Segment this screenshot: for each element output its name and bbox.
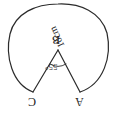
figure-svg	[0, 0, 117, 115]
vertex-label-a: A	[75, 96, 84, 108]
vertex-label-c: C	[28, 96, 36, 108]
radius-line-ba	[58, 50, 80, 92]
geometry-figure: B C A 55° 10cm	[0, 0, 117, 115]
angle-measure-label: 55°	[45, 62, 58, 71]
